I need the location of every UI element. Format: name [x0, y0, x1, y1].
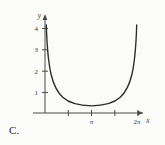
y-tick-label-2: 2 [35, 68, 39, 76]
y-tick-label-1: 1 [35, 89, 39, 97]
y-tick-label-3: 3 [35, 46, 39, 54]
x-axis-label: x [145, 116, 150, 125]
y-axis-arrow-icon [43, 14, 48, 20]
graph-figure: 1 2 3 4 π 2π y x C. [0, 0, 165, 145]
x-tick-label-two-pi: 2π [133, 118, 141, 126]
x-tick-label-pi: π [90, 118, 94, 126]
choice-label: C. [9, 124, 20, 136]
y-axis-label: y [37, 11, 42, 20]
function-curve [46, 25, 136, 106]
plot-area: 1 2 3 4 π 2π y x [0, 0, 165, 145]
y-tick-label-4: 4 [35, 25, 39, 33]
